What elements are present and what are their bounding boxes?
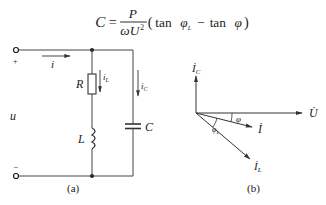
resistor-label: R bbox=[75, 77, 84, 91]
phasor-diagram: İC U̇ İ İL φ φL (b) bbox=[191, 62, 319, 195]
resistor bbox=[88, 74, 96, 94]
inductor-label: L bbox=[77, 132, 85, 146]
voltage-label: u bbox=[10, 109, 16, 123]
circuit-caption: (a) bbox=[67, 182, 80, 195]
plus-sign: + bbox=[13, 57, 18, 66]
current-i-label: i bbox=[51, 58, 54, 70]
phasor-I-label: İ bbox=[257, 122, 263, 136]
current-iC-label: iC bbox=[141, 81, 149, 92]
capacitor-label: C bbox=[145, 120, 154, 134]
minus-sign: − bbox=[13, 162, 18, 172]
phasor-IC-label: İC bbox=[191, 62, 201, 76]
phasor-U-label: U̇ bbox=[309, 106, 319, 120]
top-terminal bbox=[14, 48, 19, 53]
inductor bbox=[92, 128, 95, 149]
angle-phi-arc bbox=[231, 113, 232, 122]
bottom-terminal bbox=[14, 174, 19, 179]
phasor-IL-label: İL bbox=[253, 160, 262, 174]
current-iL-label: iL bbox=[103, 72, 110, 83]
angle-phiL-label: φL bbox=[212, 125, 219, 135]
phasor-caption: (b) bbox=[247, 182, 260, 195]
figures: + − u i R L iL C iC (a) İC bbox=[0, 0, 326, 205]
circuit-diagram: + − u i R L iL C iC (a) bbox=[10, 48, 154, 196]
angle-phi-label: φ bbox=[236, 114, 241, 124]
